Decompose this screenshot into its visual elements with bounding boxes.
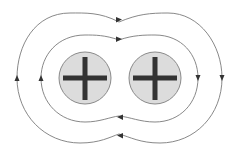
arrow-up-icon <box>15 75 20 81</box>
positive-charge-left <box>59 52 111 104</box>
arrow-left-icon <box>117 115 123 121</box>
arrow-up-icon <box>39 75 44 81</box>
arrow-down-icon <box>220 75 225 81</box>
outer-field-line <box>17 13 222 143</box>
positive-charge-right <box>129 52 181 104</box>
arrow-right-icon <box>116 37 122 43</box>
field-line-diagram <box>0 0 238 155</box>
arrow-down-icon <box>196 75 201 81</box>
